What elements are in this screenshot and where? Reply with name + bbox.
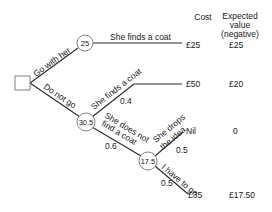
label-prob-0-6: 0.6 — [105, 141, 117, 151]
outcome-cost-4: £35 — [188, 190, 202, 200]
label-go-with-her: Go with her — [31, 45, 72, 79]
chance-node-17-5-label: 17.5 — [141, 157, 156, 166]
outcome-cost-1: £25 — [186, 40, 200, 50]
label-prob-0-4: 0.4 — [120, 96, 132, 106]
label-do-not-go: Do not go — [42, 81, 78, 110]
label-she-finds-coat-2: She finds a coat — [89, 66, 144, 112]
decision-node-square — [15, 76, 30, 90]
decision-tree-diagram: 25 30.5 17.5 Go with her Do not go She f… — [0, 0, 272, 212]
label-she-finds-coat-1: She finds a coat — [110, 32, 172, 42]
header-expected-3: (negative) — [221, 29, 259, 39]
outcome-cost-2: £50 — [186, 79, 200, 89]
chance-node-30-5-label: 30.5 — [79, 118, 94, 127]
outcome-expected-3: 0 — [233, 126, 238, 136]
outcome-expected-2: £20 — [229, 79, 243, 89]
outcome-expected-1: £25 — [229, 40, 243, 50]
chance-node-25-label: 25 — [81, 39, 89, 48]
header-cost: Cost — [194, 12, 212, 22]
label-prob-0-5-drops: 0.5 — [176, 145, 188, 155]
label-prob-0-5-go: 0.5 — [161, 178, 173, 188]
outcome-expected-4: £17.50 — [229, 190, 255, 200]
outcome-cost-3: Nil — [186, 126, 196, 136]
